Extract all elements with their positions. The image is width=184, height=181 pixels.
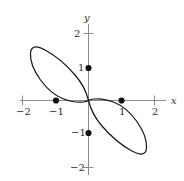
curve-loop-upper-left [30,47,88,102]
marked-point-0-minus1 [85,130,91,136]
curve-loop-lower-right [89,99,147,154]
point-label-minus1-y: −1 [71,128,86,138]
point-label-1-y: 1 [78,63,84,73]
marked-point-1-0 [118,97,124,103]
plot-canvas [0,0,184,181]
point-label-minus1-x: −1 [49,107,64,117]
y-tick-label-2: 2 [74,29,80,39]
point-label-1-x: 1 [119,107,125,117]
marked-point-0-1 [85,65,91,71]
x-tick-label-2: 2 [152,107,158,117]
y-tick-label-minus2: −2 [70,163,85,173]
x-axis-label: x [171,96,177,106]
x-tick-label-minus2: −2 [16,107,31,117]
plot-figure: y x −2 2 2 −2 −1 1 1 −1 [0,0,184,181]
marked-point-minus1-0 [53,97,59,103]
y-axis-label: y [84,13,90,23]
